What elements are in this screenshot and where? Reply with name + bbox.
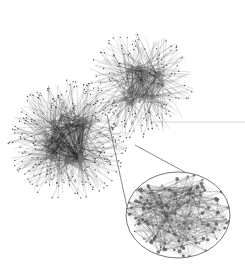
network-graph-canvas	[0, 0, 245, 278]
magnifier-inset	[126, 172, 231, 258]
cluster-lower-left	[8, 80, 128, 199]
network-figure	[0, 0, 245, 278]
